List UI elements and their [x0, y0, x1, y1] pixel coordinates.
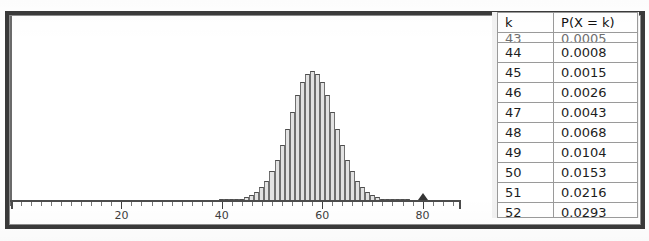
- x-axis-minor-tick: [71, 202, 72, 206]
- x-axis-minor-tick: [212, 202, 213, 206]
- x-axis-minor-tick: [131, 202, 132, 206]
- cell-k: 44: [498, 43, 554, 63]
- x-axis-minor-tick: [292, 202, 293, 206]
- x-axis-minor-tick: [232, 202, 233, 206]
- x-axis-minor-tick: [262, 202, 263, 206]
- probability-table: k P(X = k) 430.0005440.0008450.0015460.0…: [498, 13, 637, 218]
- x-axis-minor-tick: [41, 202, 42, 206]
- x-axis-minor-tick: [51, 202, 52, 206]
- cell-k: 43: [498, 33, 554, 43]
- x-axis-minor-tick: [242, 202, 243, 206]
- table-row[interactable]: 460.0026: [498, 83, 637, 103]
- cell-k: 52: [498, 203, 554, 219]
- x-axis-tick-label: 40: [215, 209, 229, 222]
- cell-k: 46: [498, 83, 554, 103]
- probability-table-panel[interactable]: k P(X = k) 430.0005440.0008450.0015460.0…: [492, 12, 639, 218]
- x-axis-minor-tick: [61, 202, 62, 206]
- x-axis-end-cap: [459, 200, 461, 209]
- x-axis-minor-tick: [282, 202, 283, 206]
- table-row[interactable]: 440.0008: [498, 43, 637, 63]
- x-axis-minor-tick: [252, 202, 253, 206]
- x-axis-minor-tick: [302, 202, 303, 206]
- cell-probability: 0.0068: [554, 123, 637, 143]
- x-axis-minor-tick: [182, 202, 183, 206]
- cell-k: 51: [498, 183, 554, 203]
- cell-probability: 0.0216: [554, 183, 637, 203]
- x-axis-minor-tick: [392, 202, 393, 206]
- x-axis-start-cap: [11, 200, 13, 209]
- x-axis-minor-tick: [91, 202, 92, 206]
- x-axis-minor-tick: [413, 202, 414, 206]
- x-axis-major-tick: [322, 202, 323, 209]
- histogram-bar: [405, 199, 410, 200]
- column-header-probability[interactable]: P(X = k): [554, 13, 637, 33]
- x-axis-minor-tick: [272, 202, 273, 206]
- cell-k: 47: [498, 103, 554, 123]
- cell-probability: 0.0153: [554, 163, 637, 183]
- cell-probability: 0.0015: [554, 63, 637, 83]
- cell-probability: 0.0043: [554, 103, 637, 123]
- triangle-marker-icon: [418, 193, 428, 200]
- table-row[interactable]: 520.0293: [498, 203, 637, 219]
- x-axis-minor-tick: [382, 202, 383, 206]
- cell-probability: 0.0026: [554, 83, 637, 103]
- table-header-row: k P(X = k): [498, 13, 637, 33]
- x-axis-minor-tick: [453, 202, 454, 206]
- plot-area: 20406080: [10, 16, 469, 224]
- histogram-chart-panel[interactable]: 20406080: [10, 16, 469, 224]
- x-axis-minor-tick: [141, 202, 142, 206]
- cell-probability: 0.0293: [554, 203, 637, 219]
- x-axis-major-tick: [222, 202, 223, 209]
- x-axis-minor-tick: [21, 202, 22, 206]
- x-axis-minor-tick: [192, 202, 193, 206]
- x-axis-minor-tick: [342, 202, 343, 206]
- x-axis-minor-tick: [433, 202, 434, 206]
- x-axis-minor-tick: [81, 202, 82, 206]
- table-row[interactable]: 510.0216: [498, 183, 637, 203]
- table-row[interactable]: 500.0153: [498, 163, 637, 183]
- cell-k: 48: [498, 123, 554, 143]
- cell-k: 49: [498, 143, 554, 163]
- x-axis-minor-tick: [362, 202, 363, 206]
- cell-k: 45: [498, 63, 554, 83]
- x-axis-minor-tick: [403, 202, 404, 206]
- probability-table-box[interactable]: k P(X = k) 430.0005440.0008450.0015460.0…: [497, 12, 638, 218]
- table-row-clipped[interactable]: 430.0005: [498, 33, 637, 43]
- cell-probability: 0.0005: [554, 33, 637, 43]
- x-axis-tick-label: 20: [114, 209, 128, 222]
- table-row[interactable]: 490.0104: [498, 143, 637, 163]
- x-axis-minor-tick: [101, 202, 102, 206]
- table-row[interactable]: 450.0015: [498, 63, 637, 83]
- x-axis-minor-tick: [162, 202, 163, 206]
- column-header-k[interactable]: k: [498, 13, 554, 33]
- x-axis-minor-tick: [152, 202, 153, 206]
- x-axis-minor-tick: [352, 202, 353, 206]
- x-axis-minor-tick: [312, 202, 313, 206]
- x-axis-major-tick: [121, 202, 122, 209]
- x-axis-minor-tick: [372, 202, 373, 206]
- x-axis-tick-label: 80: [416, 209, 430, 222]
- x-axis-minor-tick: [172, 202, 173, 206]
- table-body: 430.0005440.0008450.0015460.0026470.0043…: [498, 33, 637, 219]
- screenshot-root: 20406080 k P(X = k) 430.0005440.0008450.…: [0, 0, 649, 241]
- cell-probability: 0.0008: [554, 43, 637, 63]
- x-axis-minor-tick: [111, 202, 112, 206]
- x-axis-minor-tick: [202, 202, 203, 206]
- x-axis-minor-tick: [31, 202, 32, 206]
- x-axis-minor-tick: [332, 202, 333, 206]
- x-axis-tick-label: 60: [315, 209, 329, 222]
- cell-k: 50: [498, 163, 554, 183]
- table-row[interactable]: 480.0068: [498, 123, 637, 143]
- x-axis-minor-tick: [443, 202, 444, 206]
- x-axis-major-tick: [423, 202, 424, 209]
- cell-probability: 0.0104: [554, 143, 637, 163]
- table-row[interactable]: 470.0043: [498, 103, 637, 123]
